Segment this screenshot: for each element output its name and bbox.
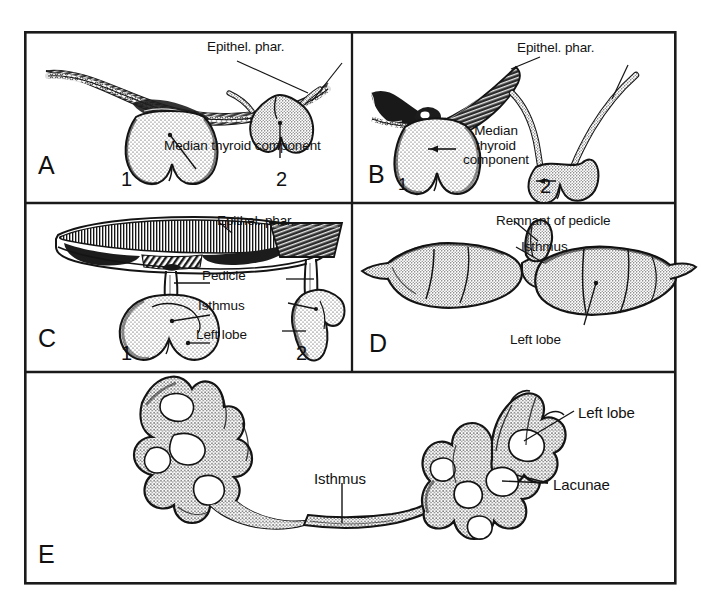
label-left-lobe-c: Left lobe	[196, 327, 247, 342]
panel-b-subfigure-2-number: 2	[540, 176, 551, 196]
label-isthmus-c: Isthmus	[198, 298, 245, 313]
panel-letter-b: B	[368, 162, 385, 187]
anatomical-illustration	[24, 31, 677, 585]
label-lacunae-e: Lacunae	[553, 477, 610, 492]
panel-letter-c: C	[38, 326, 56, 351]
label-isthmus-e: Isthmus	[314, 471, 366, 486]
panel-grid: A 1 2 Epithel. phar. Median thyroid comp…	[24, 31, 677, 585]
panel-c-subfigure-1-number: 1	[121, 343, 132, 363]
label-epithel-phar-a: Epithel. phar.	[207, 39, 284, 54]
figure-plate: A 1 2 Epithel. phar. Median thyroid comp…	[0, 0, 701, 598]
label-isthmus-d: Isthmus	[521, 239, 568, 254]
panel-c-subfigure-2-number: 2	[296, 343, 307, 363]
panel-b-subfigure-1-number: 1	[398, 176, 407, 193]
label-remnant-of-pedicle-d: Remnant of pedicle	[496, 213, 611, 228]
panel-letter-d: D	[369, 331, 387, 356]
label-median-thyroid-component-b: Median thyroid component	[460, 124, 532, 168]
label-pedicle-c: Pedicle	[202, 268, 246, 283]
panel-letter-e: E	[38, 542, 55, 567]
panel-e-figure	[134, 377, 574, 539]
panel-c-figure-2	[270, 223, 345, 360]
panel-a-subfigure-1-number: 1	[121, 169, 132, 189]
label-epithel-phar-b: Epithel. phar.	[517, 40, 594, 55]
label-left-lobe-e: Left lobe	[578, 405, 635, 420]
panel-d-figure	[362, 220, 696, 325]
panel-a-subfigure-2-number: 2	[276, 169, 287, 189]
label-left-lobe-d: Left lobe	[510, 332, 561, 347]
label-epithel-phar-c: Epithel. phar.	[217, 213, 294, 228]
label-median-thyroid-component-a: Median thyroid component	[164, 138, 321, 153]
panel-letter-a: A	[38, 153, 55, 178]
